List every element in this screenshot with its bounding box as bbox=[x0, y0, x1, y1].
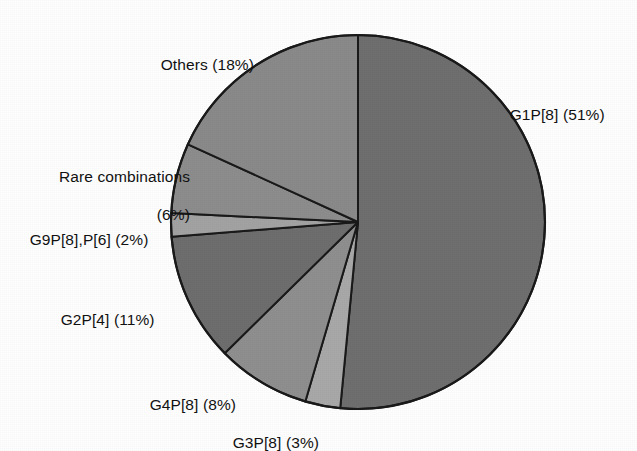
slice-label-g3p8-text: G3P[8] (3%) bbox=[233, 434, 319, 451]
pie-chart-figure: Others (18%) G1P[8] (51%) Rare combinati… bbox=[0, 0, 637, 451]
slice-label-g1p8: G1P[8] (51%) bbox=[492, 86, 605, 143]
slice-label-g1p8-text: G1P[8] (51%) bbox=[510, 106, 605, 123]
slice-label-g3p8: G3P[8] (3%) bbox=[215, 414, 319, 451]
slice-label-rare-combinations-line1: Rare combinations bbox=[59, 168, 190, 185]
slice-label-g9p8-p6-text: G9P[8],P[6] (2%) bbox=[30, 231, 149, 248]
slice-label-g9p8-p6: G9P[8],P[6] (2%) bbox=[12, 211, 148, 268]
slice-label-g2p4: G2P[4] (11%) bbox=[43, 291, 155, 348]
slice-label-others: Others (18%) bbox=[143, 36, 254, 93]
slice-label-g4p8-text: G4P[8] (8%) bbox=[150, 396, 236, 413]
slice-label-others-text: Others (18%) bbox=[161, 56, 254, 73]
slice-label-g2p4-text: G2P[4] (11%) bbox=[61, 311, 155, 328]
